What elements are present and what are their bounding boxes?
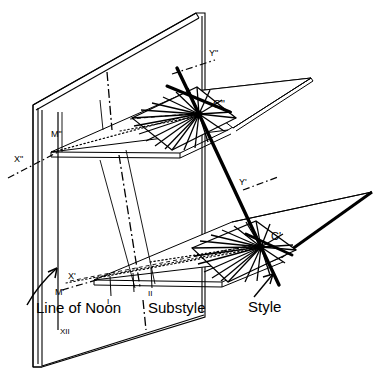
- label-m-lower: M': [55, 288, 64, 297]
- label-hour-two: II: [148, 290, 152, 298]
- label-substyle: Substyle: [148, 300, 206, 315]
- label-y-lower: Y': [239, 178, 247, 187]
- label-c-upper: C": [213, 99, 225, 110]
- label-x-lower: X': [68, 272, 76, 281]
- diagram-canvas: Y" C" M" X" Y' C' M' X' Style Substyle L…: [0, 0, 386, 380]
- label-hour-one: I: [107, 298, 109, 306]
- label-noon-hour: XII: [60, 328, 70, 336]
- sundial-diagram-svg: [0, 0, 386, 380]
- label-m-upper: M": [51, 130, 62, 139]
- label-c-lower: C': [271, 231, 281, 242]
- label-style: Style: [248, 299, 281, 314]
- y-axis-lower: [243, 177, 278, 190]
- label-y-upper: Y": [209, 49, 218, 58]
- label-x-upper: X": [14, 155, 23, 164]
